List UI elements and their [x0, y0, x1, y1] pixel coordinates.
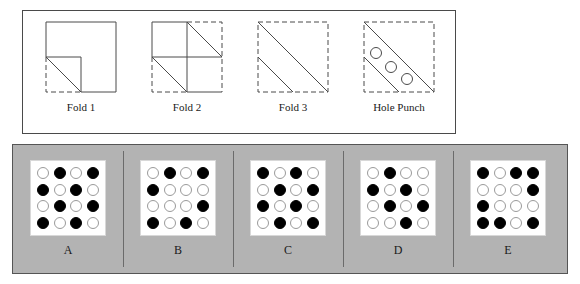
- dot-cell: [288, 182, 305, 199]
- fold-3-label: Fold 3: [243, 101, 343, 114]
- dot-cell: [272, 182, 289, 199]
- dot-cell: [178, 215, 195, 232]
- dot-open: [290, 184, 302, 196]
- dot-filled: [477, 167, 489, 179]
- dot-filled: [367, 184, 379, 196]
- dot-open: [367, 167, 379, 179]
- dot-filled: [164, 167, 176, 179]
- dot-filled: [70, 217, 82, 229]
- dot-filled: [527, 167, 539, 179]
- dot-filled: [274, 217, 286, 229]
- answer-option-e[interactable]: E: [453, 145, 563, 273]
- dot-cell: [365, 182, 382, 199]
- dot-cell: [492, 182, 509, 199]
- dot-cell: [272, 215, 289, 232]
- dot-cell: [415, 182, 432, 199]
- dot-filled: [87, 167, 99, 179]
- dot-cell: [35, 182, 52, 199]
- dot-cell: [305, 165, 322, 182]
- dot-open: [87, 184, 99, 196]
- dot-open: [197, 217, 209, 229]
- dot-open: [494, 167, 506, 179]
- dot-cell: [492, 198, 509, 215]
- dot-filled: [274, 184, 286, 196]
- dot-open: [527, 200, 539, 212]
- answer-option-b[interactable]: B: [123, 145, 233, 273]
- dot-cell: [475, 182, 492, 199]
- dot-cell: [85, 182, 102, 199]
- dot-cell: [195, 215, 212, 232]
- dot-open: [257, 184, 269, 196]
- dot-cell: [492, 165, 509, 182]
- option-c-grid: [250, 160, 326, 236]
- dot-cell: [398, 215, 415, 232]
- dot-cell: [255, 198, 272, 215]
- dot-cell: [85, 215, 102, 232]
- dot-cell: [68, 165, 85, 182]
- dot-cell: [162, 198, 179, 215]
- option-d-label: D: [343, 243, 453, 257]
- dot-cell: [475, 215, 492, 232]
- dot-cell: [52, 165, 69, 182]
- dot-cell: [85, 198, 102, 215]
- dot-open: [147, 167, 159, 179]
- dot-filled: [290, 200, 302, 212]
- dot-open: [400, 200, 412, 212]
- dot-cell: [272, 198, 289, 215]
- dot-filled: [147, 217, 159, 229]
- hole-punch-label: Hole Punch: [349, 101, 449, 114]
- dot-open: [87, 217, 99, 229]
- dot-cell: [52, 215, 69, 232]
- dot-filled: [54, 167, 66, 179]
- option-d-grid: [360, 160, 436, 236]
- dot-open: [274, 200, 286, 212]
- dot-open: [417, 167, 429, 179]
- dot-open: [384, 184, 396, 196]
- dot-cell: [162, 182, 179, 199]
- dot-filled: [70, 184, 82, 196]
- dot-cell: [178, 182, 195, 199]
- option-b-label: B: [123, 243, 233, 257]
- dot-cell: [145, 165, 162, 182]
- dot-cell: [398, 182, 415, 199]
- dot-cell: [365, 215, 382, 232]
- dot-cell: [475, 165, 492, 182]
- dot-open: [417, 217, 429, 229]
- option-e-grid: [470, 160, 546, 236]
- dot-cell: [475, 198, 492, 215]
- dot-cell: [525, 198, 542, 215]
- fold-1-diagram: [45, 21, 117, 93]
- answer-option-c[interactable]: C: [233, 145, 343, 273]
- dot-filled: [290, 167, 302, 179]
- dot-filled: [307, 184, 319, 196]
- dot-cell: [415, 215, 432, 232]
- dot-cell: [178, 165, 195, 182]
- dot-cell: [382, 215, 399, 232]
- dot-cell: [382, 198, 399, 215]
- dot-open: [164, 217, 176, 229]
- dot-cell: [35, 215, 52, 232]
- dot-open: [274, 167, 286, 179]
- dot-filled: [400, 217, 412, 229]
- dot-open: [164, 184, 176, 196]
- dot-open: [164, 200, 176, 212]
- dot-open: [37, 200, 49, 212]
- dot-cell: [288, 198, 305, 215]
- dot-open: [494, 200, 506, 212]
- dot-cell: [508, 198, 525, 215]
- dot-filled: [527, 184, 539, 196]
- answer-option-d[interactable]: D: [343, 145, 453, 273]
- dot-open: [477, 184, 489, 196]
- option-b-grid: [140, 160, 216, 236]
- answer-option-a[interactable]: A: [13, 145, 123, 273]
- dot-filled: [87, 200, 99, 212]
- punched-hole-1: [371, 48, 382, 59]
- dot-cell: [382, 165, 399, 182]
- dot-cell: [305, 182, 322, 199]
- dot-cell: [178, 198, 195, 215]
- dot-cell: [35, 165, 52, 182]
- dot-cell: [195, 198, 212, 215]
- dot-cell: [145, 182, 162, 199]
- dot-open: [180, 167, 192, 179]
- punched-hole-2: [386, 62, 397, 73]
